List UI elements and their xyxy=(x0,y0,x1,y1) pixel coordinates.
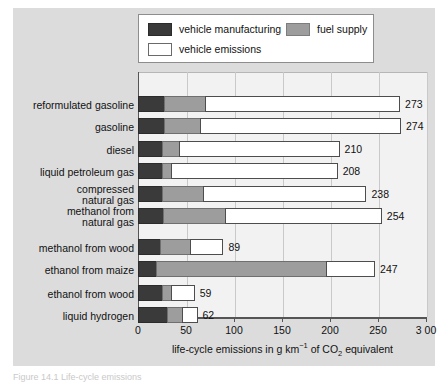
legend-label-manufacturing: vehicle manufacturing xyxy=(179,23,281,36)
bar-value-label: 238 xyxy=(371,186,389,202)
legend-label-fuel: fuel supply xyxy=(317,23,367,36)
bar-segment-fuel xyxy=(162,141,179,157)
category-label-line: reformulated gasoline xyxy=(8,100,134,111)
bar-segment-emissions xyxy=(171,163,338,179)
bar-segment-emissions xyxy=(225,208,381,224)
bar-segment-fuel xyxy=(162,163,171,179)
bar-segment-manufacturing xyxy=(138,186,162,202)
legend-swatch-icon-fuel xyxy=(286,23,310,36)
category-label: diesel xyxy=(8,145,134,156)
bar-row xyxy=(138,239,223,255)
x-axis-title-suffix: equivalent xyxy=(342,343,393,355)
bar-row xyxy=(138,285,195,301)
bar-segment-fuel xyxy=(160,239,190,255)
category-label: liquid hydrogen xyxy=(8,311,134,322)
bar-segment-manufacturing xyxy=(138,118,164,134)
legend-item-vehicle-manufacturing: vehicle manufacturing xyxy=(148,22,281,36)
bar-segment-manufacturing xyxy=(138,96,164,112)
legend-label-emissions: vehicle emissions xyxy=(179,43,261,56)
bar-segment-emissions xyxy=(190,239,224,255)
bar-segment-fuel xyxy=(163,208,225,224)
bar-value-label: 210 xyxy=(345,141,363,157)
bar-row xyxy=(138,261,375,277)
gridline xyxy=(427,72,428,317)
bar-segment-fuel xyxy=(156,261,326,277)
bar-segment-manufacturing xyxy=(138,307,167,323)
legend-swatch-icon-emissions xyxy=(148,43,172,56)
bar-row xyxy=(138,163,338,179)
bar-segment-manufacturing xyxy=(138,261,156,277)
bar-segment-emissions xyxy=(182,307,197,323)
x-axis-tick-label: 150 xyxy=(273,324,291,336)
x-axis-title-mid: of CO xyxy=(308,343,338,355)
category-label-line: ethanol from wood xyxy=(8,289,134,300)
bar-value-label: 254 xyxy=(387,208,405,224)
category-label: ethanol from wood xyxy=(8,289,134,300)
bar-segment-emissions xyxy=(200,118,401,134)
category-label-line: ethanol from maize xyxy=(8,265,134,276)
x-axis-tick xyxy=(378,317,379,322)
bar-segment-manufacturing xyxy=(138,239,160,255)
bar-segment-emissions xyxy=(326,261,375,277)
chart-legend: vehicle manufacturing fuel supply vehicl… xyxy=(138,14,374,63)
category-label-line: natural gas xyxy=(8,217,134,228)
bar-value-label: 59 xyxy=(200,285,212,301)
bar-segment-manufacturing xyxy=(138,163,162,179)
bar-value-label: 273 xyxy=(405,96,423,112)
bar-value-label: 247 xyxy=(380,261,398,277)
bar-row xyxy=(138,208,382,224)
x-axis-tick-label: 3 00 xyxy=(416,324,436,336)
bar-row xyxy=(138,118,401,134)
x-axis-title-prefix: life-cycle emissions in g km xyxy=(172,343,299,355)
bar-segment-emissions xyxy=(205,96,400,112)
x-axis-tick-label: 100 xyxy=(225,324,243,336)
legend-item-fuel-supply: fuel supply xyxy=(286,22,367,36)
bar-row xyxy=(138,186,366,202)
bar-segment-emissions xyxy=(203,186,366,202)
bar-value-label: 274 xyxy=(406,118,424,134)
x-axis-tick xyxy=(234,317,235,322)
bar-value-label: 89 xyxy=(228,239,240,255)
category-label: methanol fromnatural gas xyxy=(8,206,134,228)
category-label-line: diesel xyxy=(8,145,134,156)
bar-segment-manufacturing xyxy=(138,285,162,301)
category-label: reformulated gasoline xyxy=(8,100,134,111)
bar-segment-manufacturing xyxy=(138,208,163,224)
bar-segment-fuel xyxy=(164,118,200,134)
category-label-line: gasoline xyxy=(8,122,134,133)
x-axis-tick-label: 50 xyxy=(180,324,192,336)
bar-segment-fuel xyxy=(162,285,171,301)
category-label: compressednatural gas xyxy=(8,184,134,206)
x-axis-tick xyxy=(426,317,427,322)
bar-row xyxy=(138,141,340,157)
category-label: gasoline xyxy=(8,122,134,133)
bar-segment-emissions xyxy=(171,285,195,301)
figure: vehicle manufacturing fuel supply vehicl… xyxy=(0,0,448,392)
bar-row xyxy=(138,307,198,323)
category-label: methanol from wood xyxy=(8,243,134,254)
category-label: ethanol from maize xyxy=(8,265,134,276)
category-label-line: methanol from wood xyxy=(8,243,134,254)
bar-segment-emissions xyxy=(179,141,339,157)
legend-swatch-icon-manufacturing xyxy=(148,23,172,36)
x-axis-title: life-cycle emissions in g km−1 of CO2 eq… xyxy=(138,341,427,358)
bar-segment-fuel xyxy=(162,186,203,202)
x-axis-tick xyxy=(282,317,283,322)
x-axis-tick-label: 200 xyxy=(321,324,339,336)
x-axis-title-exponent: −1 xyxy=(299,341,308,350)
bar-segment-manufacturing xyxy=(138,141,162,157)
category-label-line: liquid hydrogen xyxy=(8,311,134,322)
bar-segment-fuel xyxy=(167,307,182,323)
figure-caption: Figure 14.1 Life-cycle emissions xyxy=(13,372,142,382)
bar-value-label: 62 xyxy=(203,307,215,323)
x-axis-tick-label: 250 xyxy=(369,324,387,336)
category-label: liquid petroleum gas xyxy=(8,167,134,178)
bar-segment-fuel xyxy=(164,96,205,112)
x-axis-tick xyxy=(330,317,331,322)
category-label-line: liquid petroleum gas xyxy=(8,167,134,178)
bar-row xyxy=(138,96,400,112)
x-axis-tick-label: 0 xyxy=(135,324,141,336)
legend-item-vehicle-emissions: vehicle emissions xyxy=(148,42,261,56)
bar-value-label: 208 xyxy=(343,163,361,179)
